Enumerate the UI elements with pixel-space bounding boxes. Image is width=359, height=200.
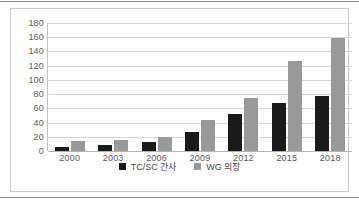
top-rule [0,1,359,2]
bar-2018-series-1[interactable] [331,38,345,151]
bar-group-2012: 2012 [222,23,265,151]
y-tick-label-0: 0 [39,146,44,156]
bar-2000-series-1[interactable] [71,141,85,151]
y-tick-label-140: 140 [28,46,44,56]
legend-swatch-icon-0 [119,163,126,170]
y-tick-label-180: 180 [28,18,44,28]
y-tick-label-100: 100 [28,75,44,85]
bar-2012-series-1[interactable] [244,98,258,151]
bar-2018-series-0[interactable] [315,96,329,151]
legend-swatch-icon-1 [194,163,201,170]
chart-figure: 020406080100120140160180 200020032006200… [0,0,359,200]
legend-item-1[interactable]: WG 의장 [194,160,240,173]
bar-group-2003: 2003 [91,23,134,151]
y-tick-label-160: 160 [28,32,44,42]
y-tick-label-120: 120 [28,61,44,71]
bar-2003-series-0[interactable] [98,145,112,151]
chart-legend: TC/SC 간사WG 의장 [0,160,359,173]
bar-2015-series-0[interactable] [272,103,286,151]
legend-item-0[interactable]: TC/SC 간사 [119,160,177,173]
y-tick-label-80: 80 [34,89,44,99]
plot-area: 020406080100120140160180 200020032006200… [48,23,352,151]
bar-2012-series-0[interactable] [228,114,242,151]
bar-group-2015: 2015 [265,23,308,151]
y-tick-label-60: 60 [34,103,44,113]
gridline-0 [48,151,352,152]
y-tick-label-40: 40 [34,118,44,128]
bottom-rule [0,197,359,198]
bar-2009-series-0[interactable] [185,132,199,151]
bar-group-2018: 2018 [309,23,352,151]
bar-group-2009: 2009 [178,23,221,151]
legend-label-1: WG 의장 [206,160,240,173]
bar-2006-series-1[interactable] [158,137,172,151]
legend-label-0: TC/SC 간사 [131,160,177,173]
bar-2006-series-0[interactable] [142,142,156,151]
bar-2003-series-1[interactable] [114,140,128,151]
bar-group-2000: 2000 [48,23,91,151]
bar-2000-series-0[interactable] [55,147,69,151]
bar-2015-series-1[interactable] [288,61,302,151]
bar-group-2006: 2006 [135,23,178,151]
bar-groups: 2000200320062009201220152018 [48,23,352,151]
y-tick-label-20: 20 [34,132,44,142]
bar-2009-series-1[interactable] [201,120,215,151]
